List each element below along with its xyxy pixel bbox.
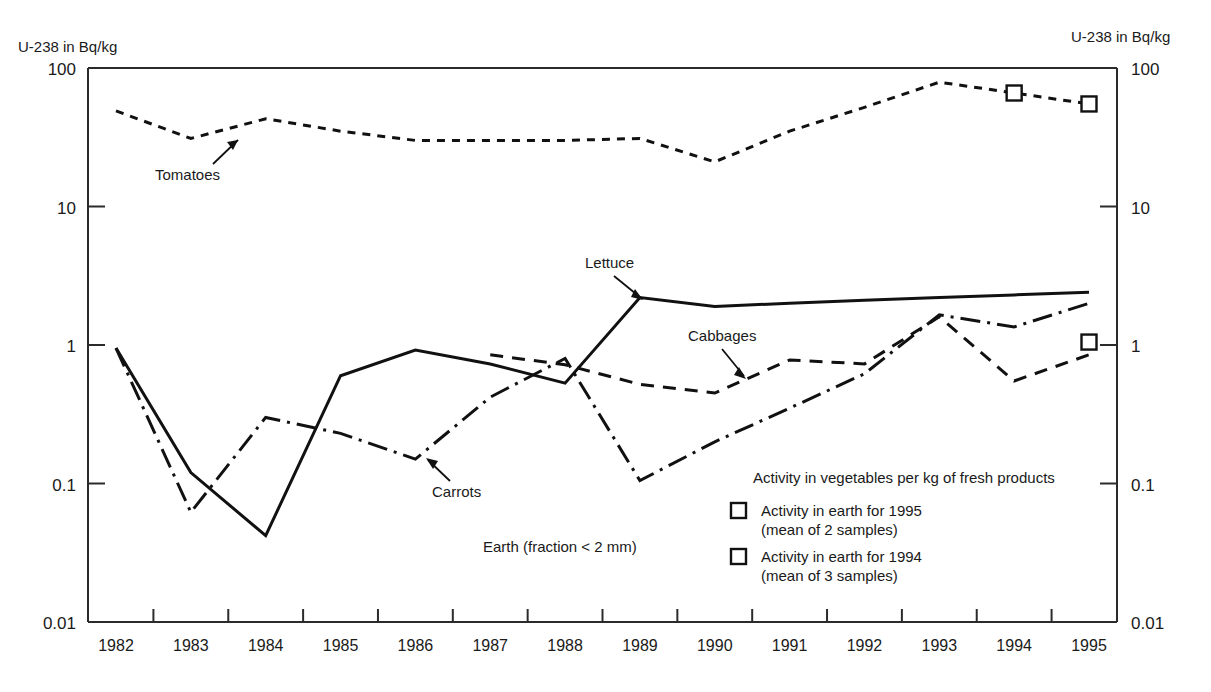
legend-item-1994-sub: (mean of 3 samples) <box>761 567 898 584</box>
x-tick-label-1995: 1995 <box>1071 637 1107 654</box>
y-tick-label-left-0.1: 0.1 <box>52 476 76 495</box>
y-axis-labels-left: 1001010.10.01 <box>43 60 76 633</box>
x-tick-label-1991: 1991 <box>772 637 808 654</box>
x-tick-label-1993: 1993 <box>922 637 958 654</box>
chart-canvas: 1001010.10.01 1001010.10.01 198219831984… <box>0 0 1211 692</box>
annotation-lettuce: Lettuce <box>585 254 643 300</box>
y-axis-ticks-right <box>1100 207 1117 484</box>
data-series-group <box>116 82 1089 536</box>
legend: Activity in vegetables per kg of fresh p… <box>731 469 1055 584</box>
x-tick-label-1989: 1989 <box>622 637 658 654</box>
marker-earth-1995-lower <box>1082 335 1097 350</box>
earth-fraction-note: Earth (fraction < 2 mm) <box>483 538 637 555</box>
x-axis-labels: 1982198319841985198619871988198919901991… <box>98 637 1107 654</box>
y-tick-label-left-1: 1 <box>67 337 76 356</box>
series-line-cabbages <box>490 317 1089 393</box>
x-tick-label-1986: 1986 <box>398 637 434 654</box>
legend-item-1994-label: Activity in earth for 1994 <box>761 548 922 565</box>
annotation-cabbages-arrowhead <box>734 367 746 379</box>
y-axis-unit-label-left: U-238 in Bq/kg <box>18 38 117 55</box>
x-tick-label-1994: 1994 <box>996 637 1032 654</box>
y-tick-label-right-0.01: 0.01 <box>1131 614 1164 633</box>
marker-earth-1995-upper <box>1082 96 1097 111</box>
x-tick-label-1990: 1990 <box>697 637 733 654</box>
x-tick-label-1982: 1982 <box>98 637 134 654</box>
legend-item-1995-label: Activity in earth for 1995 <box>761 502 922 519</box>
y-tick-label-left-100: 100 <box>48 60 76 79</box>
y-axis-labels-right: 1001010.10.01 <box>1131 60 1164 633</box>
x-tick-label-1992: 1992 <box>847 637 883 654</box>
annotation-carrots-label: Carrots <box>432 483 481 500</box>
x-tick-label-1984: 1984 <box>248 637 284 654</box>
x-tick-label-1988: 1988 <box>547 637 583 654</box>
x-tick-label-1985: 1985 <box>323 637 359 654</box>
legend-item-1995-sub: (mean of 2 samples) <box>761 521 898 538</box>
x-tick-label-1983: 1983 <box>173 637 209 654</box>
y-tick-label-left-10: 10 <box>57 199 76 218</box>
y-tick-label-left-0.01: 0.01 <box>43 614 76 633</box>
series-line-lettuce <box>116 292 1089 535</box>
y-tick-label-right-10: 10 <box>1131 199 1150 218</box>
annotation-carrots: Carrots <box>426 458 481 500</box>
legend-header: Activity in vegetables per kg of fresh p… <box>753 469 1055 486</box>
legend-marker-1994-icon <box>731 549 746 564</box>
marker-earth-1994-upper <box>1007 85 1022 100</box>
x-axis-ticks <box>153 609 1051 622</box>
legend-marker-1995-icon <box>731 503 746 518</box>
y-tick-label-right-0.1: 0.1 <box>1131 476 1155 495</box>
annotation-tomatoes-label: Tomatoes <box>155 166 220 183</box>
annotation-cabbages-label: Cabbages <box>688 327 756 344</box>
earth-marker-group <box>1007 85 1097 349</box>
annotation-tomatoes: Tomatoes <box>155 140 238 183</box>
annotation-lettuce-label: Lettuce <box>585 254 634 271</box>
y-axis-unit-label-right: U-238 in Bq/kg <box>1071 28 1170 45</box>
x-tick-label-1987: 1987 <box>472 637 508 654</box>
y-axis-ticks-left <box>88 207 105 484</box>
u238-vegetables-chart: 1001010.10.01 1001010.10.01 198219831984… <box>0 0 1211 692</box>
y-tick-label-right-100: 100 <box>1131 60 1159 79</box>
annotation-cabbages: Cabbages <box>688 327 756 379</box>
series-line-tomatoes <box>116 82 1089 162</box>
y-tick-label-right-1: 1 <box>1131 337 1140 356</box>
